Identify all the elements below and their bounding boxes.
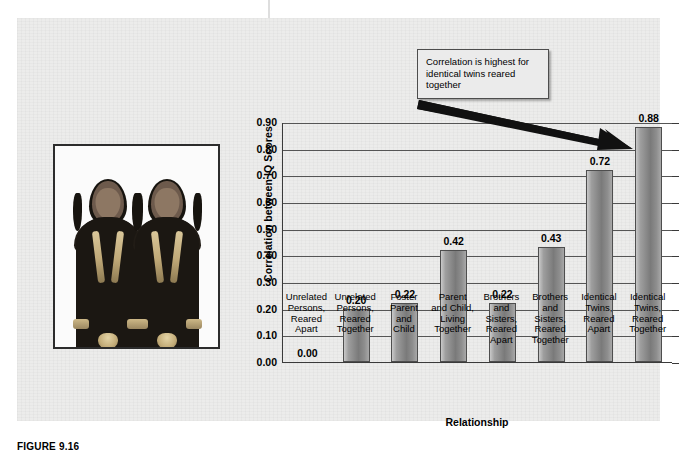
y-axis-tick-label: 0.40 bbox=[233, 249, 277, 261]
x-axis-category-label: FosterParentandChild bbox=[378, 292, 430, 335]
sleeve-cuff-left bbox=[73, 319, 89, 329]
x-axis-category-label: IdenticalTwins,RearedTogether bbox=[622, 292, 674, 335]
sleeve-cuff-right bbox=[186, 319, 202, 329]
hair-strand-right bbox=[193, 193, 202, 231]
category-label-line: Child bbox=[378, 324, 430, 335]
category-label-line: and bbox=[524, 303, 576, 314]
y-axis-tick-mark bbox=[672, 123, 679, 124]
y-axis-tick-label: 0.20 bbox=[233, 303, 277, 315]
y-axis-tick-mark bbox=[672, 176, 679, 177]
category-label-line: Apart bbox=[573, 324, 625, 335]
category-label-line: Parent bbox=[378, 303, 430, 314]
y-axis-tick-mark bbox=[672, 283, 679, 284]
y-axis-tick-label: 0.00 bbox=[233, 356, 277, 368]
twins-photo-image bbox=[55, 146, 218, 347]
x-axis-category-label: UnrelatedPersons,RearedApart bbox=[280, 292, 332, 335]
twin-figure-right bbox=[131, 179, 203, 347]
bar-value-label: 0.43 bbox=[527, 232, 576, 244]
y-axis-tick-mark bbox=[672, 336, 679, 337]
callout-arrow-icon bbox=[417, 98, 647, 153]
x-axis-title: Relationship bbox=[282, 416, 672, 428]
y-axis-tick-label: 0.30 bbox=[233, 276, 277, 288]
y-axis-tick-mark bbox=[672, 230, 679, 231]
category-label-line: Persons, bbox=[280, 303, 332, 314]
embroidery-medallion bbox=[98, 333, 118, 347]
category-label-line: Persons, bbox=[329, 303, 381, 314]
y-axis-tick-label: 0.90 bbox=[233, 116, 277, 128]
y-axis-tick-label: 0.80 bbox=[233, 143, 277, 155]
hair-strand-left bbox=[73, 193, 82, 231]
x-axis-category-label: BrothersandSisters,RearedApart bbox=[475, 292, 527, 346]
y-axis-tick-mark bbox=[672, 256, 679, 257]
category-label-line: and bbox=[475, 303, 527, 314]
category-label-line: Twins, bbox=[573, 303, 625, 314]
embroidery-detail bbox=[154, 231, 180, 293]
page-gutter-line bbox=[268, 0, 270, 18]
x-axis-category-label: Parentand Child,LivingTogether bbox=[427, 292, 479, 335]
hair-strand-left bbox=[132, 193, 141, 231]
category-label-line: and Child, bbox=[427, 303, 479, 314]
x-axis-category-label: IdenticalTwins,RearedApart bbox=[573, 292, 625, 335]
figure-caption: FIGURE 9.16 bbox=[17, 441, 79, 453]
sleeve-cuff-left bbox=[132, 319, 148, 329]
y-axis-tick-mark bbox=[672, 150, 679, 151]
category-label-line: Apart bbox=[280, 324, 332, 335]
bar-value-label: 0.42 bbox=[429, 235, 478, 247]
category-label-line: Together bbox=[524, 335, 576, 346]
figure-panel: Correlation between IQ Scores 0.900.800.… bbox=[17, 18, 660, 421]
x-axis-category-label: UnrelatedPersons,RearedTogether bbox=[329, 292, 381, 335]
category-label-line: Together bbox=[427, 324, 479, 335]
embroidery-detail bbox=[95, 231, 121, 293]
bar-value-label: 0.72 bbox=[576, 155, 625, 167]
x-axis-category-label: BrothersandSisters,RearedTogether bbox=[524, 292, 576, 346]
y-axis-tick-mark bbox=[672, 363, 679, 364]
y-axis-tick-label: 0.10 bbox=[233, 329, 277, 341]
y-axis-tick-label: 0.70 bbox=[233, 169, 277, 181]
callout-box: Correlation is highest for identical twi… bbox=[417, 49, 549, 99]
figure-root: Correlation between IQ Scores 0.900.800.… bbox=[0, 0, 681, 453]
category-label-line: Together bbox=[622, 324, 674, 335]
twins-photo bbox=[53, 144, 220, 349]
embroidery-medallion bbox=[157, 333, 177, 347]
y-axis-tick-mark bbox=[672, 203, 679, 204]
y-axis-tick-label: 0.60 bbox=[233, 196, 277, 208]
bar-value-label: 0.00 bbox=[283, 347, 332, 359]
category-label-line: Apart bbox=[475, 335, 527, 346]
y-axis-tick-label: 0.50 bbox=[233, 223, 277, 235]
category-label-line: Together bbox=[329, 324, 381, 335]
category-label-line: Twins, bbox=[622, 303, 674, 314]
